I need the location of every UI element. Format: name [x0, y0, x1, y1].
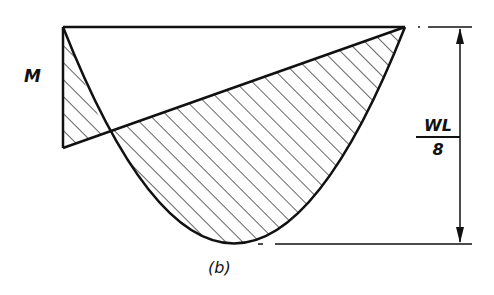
hatched-region-main	[63, 27, 405, 295]
dimension-label: WL 8	[416, 116, 460, 159]
moment-label: M	[24, 66, 41, 86]
arrow-down-icon	[456, 227, 464, 243]
dimension-denominator: 8	[416, 138, 460, 159]
dimension-numerator: WL	[416, 116, 460, 138]
arrow-up-icon	[456, 28, 464, 44]
figure-caption: (b)	[208, 258, 231, 277]
moment-diagram-figure: M WL 8 (b)	[0, 0, 494, 295]
